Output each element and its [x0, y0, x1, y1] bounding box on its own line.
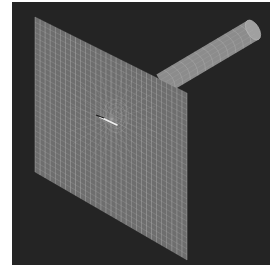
cylinder-mesh	[156, 17, 263, 93]
plate-mesh	[35, 17, 187, 260]
mesh-scene	[12, 2, 270, 265]
render-viewport	[12, 2, 270, 265]
